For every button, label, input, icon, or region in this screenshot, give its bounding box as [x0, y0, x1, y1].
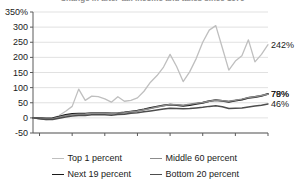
y-axis-tick-label: 200 — [13, 52, 28, 62]
legend-label: Bottom 20 percent — [166, 169, 240, 179]
legend-item-next-19-percent[interactable]: Next 19 percent — [52, 169, 138, 179]
x-axis-tick-label: 2000 — [160, 138, 180, 140]
chart-screenshot: Change in after-tax income and taxes sin… — [0, 0, 305, 188]
series-end-labels: 242%79%78%46% — [271, 40, 294, 109]
series-end-label: 46% — [271, 99, 289, 109]
x-axis-tick-label: 1995 — [127, 138, 147, 140]
y-axis-tick-label: 0 — [23, 113, 28, 123]
y-axis-tick-label: 150 — [13, 68, 28, 78]
legend-label: Top 1 percent — [68, 153, 123, 163]
legend-row-bottom: Next 19 percent Bottom 20 percent — [0, 166, 305, 182]
x-axis-tick-label: 2005 — [193, 138, 213, 140]
y-axis-tick-label: 100 — [13, 83, 28, 93]
legend-item-bottom-20-percent[interactable]: Bottom 20 percent — [150, 169, 254, 179]
x-axis: 19801985199019952000200520102015 — [30, 133, 279, 140]
line-chart: -50050100150200250300350% 19801985199019… — [0, 5, 305, 140]
y-axis-tick-label: 350% — [5, 7, 28, 17]
legend-swatch-icon — [52, 174, 64, 175]
legend-item-top-1-percent[interactable]: Top 1 percent — [52, 153, 138, 163]
legend-label: Next 19 percent — [68, 169, 132, 179]
x-axis-tick-label: 2010 — [225, 138, 245, 140]
series-end-label: 78% — [271, 89, 289, 99]
x-axis-tick-label: 2015 — [258, 138, 278, 140]
legend-swatch-icon — [150, 174, 162, 175]
chart-plot-area: -50050100150200250300350% 19801985199019… — [0, 5, 305, 140]
series-line — [33, 94, 268, 119]
chart-legend: Top 1 percent Middle 60 percent Next 19 … — [0, 150, 305, 188]
y-axis: -50050100150200250300350% — [5, 7, 33, 138]
chart-title-text: Change in after-tax income and taxes sin… — [60, 0, 245, 3]
y-axis-tick-label: -50 — [15, 128, 28, 138]
x-axis-tick-label: 1990 — [95, 138, 115, 140]
legend-swatch-icon — [52, 158, 64, 159]
x-axis-tick-label: 1980 — [30, 138, 50, 140]
series-end-label: 242% — [271, 40, 294, 50]
y-axis-tick-label: 50 — [18, 98, 28, 108]
legend-swatch-icon — [150, 158, 162, 159]
legend-label: Middle 60 percent — [166, 153, 238, 163]
y-axis-tick-label: 300 — [13, 22, 28, 32]
legend-row-top: Top 1 percent Middle 60 percent — [0, 150, 305, 166]
y-axis-tick-label: 250 — [13, 37, 28, 47]
series-line — [33, 104, 268, 119]
legend-item-middle-60-percent[interactable]: Middle 60 percent — [150, 153, 254, 163]
x-axis-tick-label: 1985 — [62, 138, 82, 140]
